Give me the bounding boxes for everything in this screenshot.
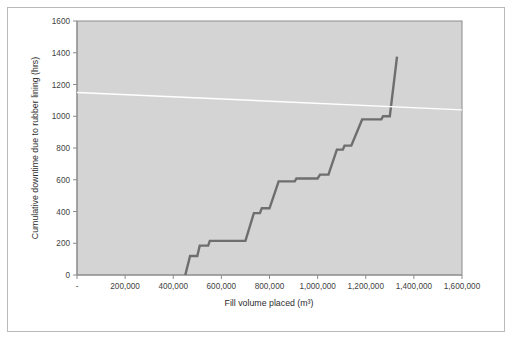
cumulative-downtime-chart: 02004006008001000120014001600 -200,00040… [0,0,514,341]
y-tick-label: 1200 [52,81,71,90]
chart-figure: 02004006008001000120014001600 -200,00040… [0,0,514,341]
x-tick-label: 800,000 [255,282,285,291]
y-axis-tick-labels: 02004006008001000120014001600 [52,17,71,280]
x-axis-tick-labels: -200,000400,000600,000800,0001,000,0001,… [76,282,481,291]
x-tick-label: - [76,282,79,291]
x-axis-title: Fill volume placed (m³) [225,298,314,308]
y-tick-label: 600 [56,176,70,185]
y-tick-label: 800 [56,144,70,153]
x-tick-label: 600,000 [207,282,237,291]
x-axis-ticks [77,275,462,279]
y-tick-label: 200 [56,239,70,248]
x-tick-label: 400,000 [158,282,188,291]
y-tick-label: 400 [56,208,70,217]
y-tick-label: 1000 [52,112,71,121]
y-tick-label: 1400 [52,49,71,58]
x-tick-label: 1,600,000 [444,282,481,291]
x-tick-label: 1,200,000 [348,282,385,291]
y-tick-label: 1600 [52,17,71,26]
plot-area-background [77,21,462,275]
x-tick-label: 200,000 [110,282,140,291]
y-axis-ticks [73,21,77,275]
x-tick-label: 1,000,000 [299,282,336,291]
y-tick-label: 0 [65,271,70,280]
y-axis-title: Cumulative downtime due to rubber lining… [30,57,40,239]
x-tick-label: 1,400,000 [396,282,433,291]
